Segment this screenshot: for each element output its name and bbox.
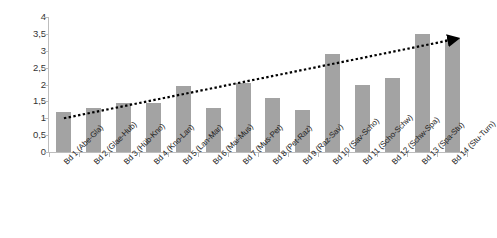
x-tick-mark — [139, 153, 140, 157]
x-tick-mark — [109, 153, 110, 157]
x-tick-mark — [49, 153, 50, 157]
x-tick-mark — [348, 153, 349, 157]
x-tick-mark — [407, 153, 408, 157]
x-tick-mark — [288, 153, 289, 157]
x-tick-mark — [228, 153, 229, 157]
y-tick-mark — [44, 34, 49, 35]
y-tick-mark — [44, 17, 49, 18]
x-tick-mark — [318, 153, 319, 157]
y-tick-mark — [44, 118, 49, 119]
y-tick-mark — [44, 51, 49, 52]
x-tick-mark — [377, 153, 378, 157]
x-tick-mark — [198, 153, 199, 157]
x-tick-mark — [437, 153, 438, 157]
x-tick-mark — [467, 153, 468, 157]
x-tick-mark — [168, 153, 169, 157]
y-tick-mark — [44, 101, 49, 102]
x-tick-mark — [79, 153, 80, 157]
x-tick-mark — [258, 153, 259, 157]
y-tick-mark — [44, 135, 49, 136]
y-tick-mark — [44, 85, 49, 86]
y-tick-mark — [44, 68, 49, 69]
